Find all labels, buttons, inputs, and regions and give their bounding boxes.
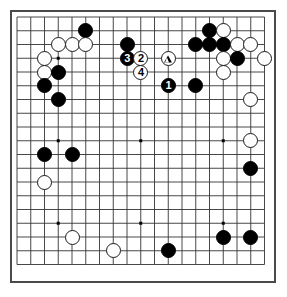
- stone-black[interactable]: [37, 147, 52, 162]
- stone-white[interactable]: [65, 230, 80, 245]
- stone-white[interactable]: [257, 51, 272, 66]
- stone-white[interactable]: [161, 51, 176, 66]
- stone-white-move-4[interactable]: 4: [133, 65, 148, 80]
- stone-white[interactable]: [216, 65, 231, 80]
- move-number-label: 1: [162, 79, 175, 92]
- stone-black-move-1[interactable]: 1: [161, 78, 176, 93]
- move-number-label: 2: [134, 52, 147, 65]
- stone-black[interactable]: [51, 65, 66, 80]
- stone-black[interactable]: [51, 92, 66, 107]
- stone-white[interactable]: [37, 51, 52, 66]
- stone-white[interactable]: [216, 23, 231, 38]
- stone-black[interactable]: [120, 37, 135, 52]
- stone-black-move-3[interactable]: 3: [120, 51, 135, 66]
- triangle-marker-icon: [164, 55, 172, 62]
- stone-white[interactable]: [37, 65, 52, 80]
- stone-white[interactable]: [51, 37, 66, 52]
- stone-white[interactable]: [106, 243, 121, 258]
- board-frame: 3241: [10, 10, 276, 283]
- stone-white[interactable]: [230, 37, 245, 52]
- board-surface[interactable]: 3241: [12, 12, 274, 281]
- stone-white[interactable]: [216, 51, 231, 66]
- stone-black[interactable]: [216, 37, 231, 52]
- stone-white[interactable]: [65, 37, 80, 52]
- stone-black[interactable]: [216, 230, 231, 245]
- stone-white[interactable]: [37, 175, 52, 190]
- stone-black[interactable]: [161, 243, 176, 258]
- stone-black[interactable]: [65, 147, 80, 162]
- stone-black[interactable]: [230, 51, 245, 66]
- stone-white-move-2[interactable]: 2: [133, 51, 148, 66]
- stone-black[interactable]: [243, 230, 258, 245]
- stone-black[interactable]: [243, 161, 258, 176]
- go-board-diagram: 3241: [0, 0, 287, 297]
- move-number-label: 3: [121, 52, 134, 65]
- move-number-label: 4: [134, 66, 147, 79]
- stone-black[interactable]: [202, 37, 217, 52]
